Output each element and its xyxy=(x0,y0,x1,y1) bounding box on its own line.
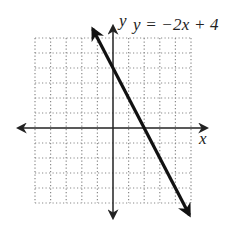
x-axis-label: x xyxy=(199,129,207,149)
equation-label: y = −2x + 4 xyxy=(133,15,219,35)
graph-figure: y x y = −2x + 4 xyxy=(0,0,241,225)
axes xyxy=(18,26,207,218)
equation-text: y = −2x + 4 xyxy=(133,15,219,34)
y-axis-label: y xyxy=(119,11,127,31)
